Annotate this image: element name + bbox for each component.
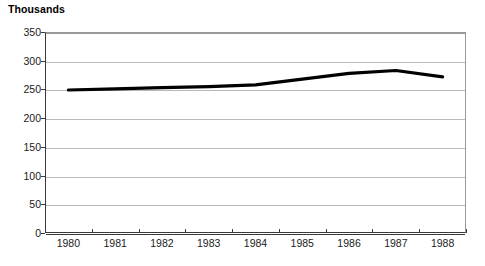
y-axis-tick-marks: [0, 32, 45, 233]
series-line-layer: [45, 32, 466, 233]
chart-container: Thousands 050100150200250300350 19801981…: [0, 0, 485, 266]
chart-title: Thousands: [8, 3, 65, 15]
x-tick-mark-1: [92, 229, 93, 233]
x-tick-mark-9: [466, 229, 467, 233]
x-tick-mark-0: [45, 229, 46, 233]
x-tick-mark-3: [185, 229, 186, 233]
x-tick-mark-2: [139, 229, 140, 233]
series-line-thousands: [68, 70, 442, 90]
x-tick-mark-4: [232, 229, 233, 233]
x-tick-mark-5: [279, 229, 280, 233]
x-axis-labels: 198019811982198319841985198619871988: [45, 237, 466, 257]
x-tick-mark-6: [326, 229, 327, 233]
x-tick-mark-7: [372, 229, 373, 233]
x-tick-label-1988: 1988: [413, 237, 473, 249]
x-tick-mark-8: [419, 229, 420, 233]
